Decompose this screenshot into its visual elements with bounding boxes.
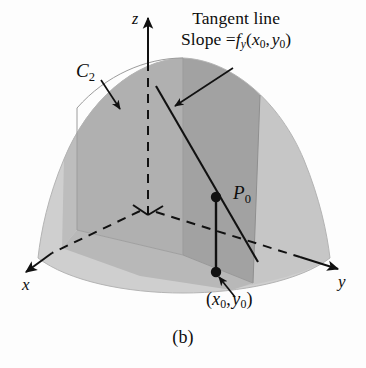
figure-drawing-canvas — [0, 0, 366, 368]
base-point-close-paren: ) — [246, 289, 252, 309]
base-point-x-symbol: x — [212, 289, 220, 309]
point-p0-subscript: 0 — [245, 192, 251, 206]
tangent-line-text: Tangent line — [181, 9, 291, 29]
axis-label-x: x — [22, 275, 30, 294]
point-p0-dot — [211, 192, 221, 202]
figure-container: Tangent line Slope =fy(x0, y0) C2 P0 (x0… — [0, 0, 366, 368]
axis-label-z: z — [132, 10, 138, 28]
slope-formula: Slope =fy(x0, y0) — [181, 30, 291, 51]
point-p0-label: P0 — [233, 182, 251, 206]
arg2-variable: y — [272, 29, 280, 49]
surface-solid — [38, 58, 330, 293]
curve-c2-subscript: 2 — [89, 70, 95, 84]
axis-label-y: y — [338, 272, 346, 291]
cut-plane-front-face — [183, 58, 260, 283]
arg-close-paren: ) — [285, 29, 291, 49]
cut-plane-left-side — [62, 108, 77, 248]
slope-prefix: Slope = — [181, 29, 236, 49]
base-point-label: (x0, y0) — [206, 289, 253, 312]
curve-c2-symbol: C — [76, 60, 89, 81]
cut-plane-back-wall — [77, 58, 183, 255]
arg-comma: , — [266, 29, 270, 49]
tangent-line-annotation: Tangent line Slope =fy(x0, y0) — [181, 9, 291, 51]
arg1-variable: x — [252, 29, 260, 49]
point-base-xy0-dot — [211, 267, 221, 277]
base-point-comma: , — [226, 289, 231, 309]
curve-c2-label: C2 — [76, 60, 95, 84]
point-p0-symbol: P — [233, 182, 245, 203]
figure-caption: (b) — [0, 327, 366, 347]
